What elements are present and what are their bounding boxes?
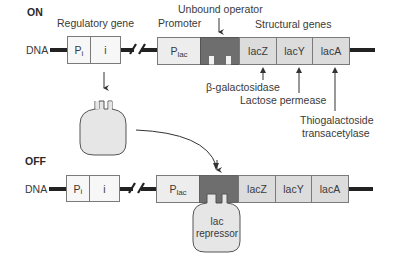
product-arrows [260,67,338,111]
dna-break-icon-off [129,183,144,193]
binding-arrow-icon [136,130,216,165]
dna-break-icon-on [130,44,145,54]
repressor-line1: lac [193,216,241,228]
repressor-line2: repressor [193,228,241,240]
lac-repressor-icon-on [80,101,126,155]
repressor-label-off: lac repressor [193,216,241,240]
lac-repressor-icon-off [193,176,240,253]
operator-binding-site-on [208,56,232,65]
